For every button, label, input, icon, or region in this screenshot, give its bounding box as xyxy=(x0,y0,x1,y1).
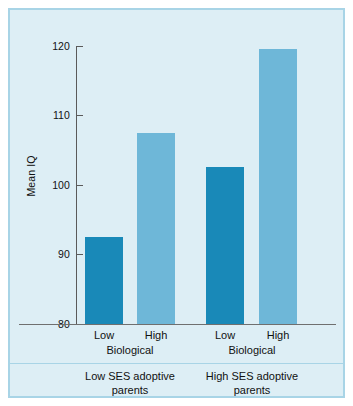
band-label-high-ses-line2: parents xyxy=(177,384,327,398)
x-tick-label-high-1: High xyxy=(126,329,186,341)
bar-group xyxy=(10,10,343,324)
x-axis-line xyxy=(19,324,336,325)
bar-high-ses-low-biological xyxy=(206,167,244,324)
x-tick-label-low-1: Low xyxy=(74,329,134,341)
bar-low-ses-high-biological xyxy=(137,133,175,324)
group-sublabel-biological-1: Biological xyxy=(70,344,190,356)
band-label-high-ses: High SES adoptive parents xyxy=(177,370,327,397)
x-tick-label-low-2: Low xyxy=(195,329,255,341)
plot-area: Mean IQ 120 110 100 90 80 Low High Low H… xyxy=(10,10,343,396)
group-sublabel-biological-2: Biological xyxy=(192,344,312,356)
bar-high-ses-high-biological xyxy=(259,49,297,324)
x-tick-label-high-2: High xyxy=(248,329,308,341)
bar-low-ses-low-biological xyxy=(85,237,123,324)
chart-figure: Mean IQ 120 110 100 90 80 Low High Low H… xyxy=(8,8,345,398)
band-divider xyxy=(10,363,343,364)
band-label-high-ses-line1: High SES adoptive xyxy=(177,370,327,384)
